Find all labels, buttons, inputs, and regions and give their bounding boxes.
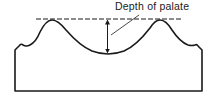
palate-depth-diagram — [0, 0, 211, 102]
palate-outline — [15, 20, 202, 91]
label-leader-line — [111, 15, 139, 35]
depth-of-palate-label: Depth of palate — [115, 0, 189, 12]
